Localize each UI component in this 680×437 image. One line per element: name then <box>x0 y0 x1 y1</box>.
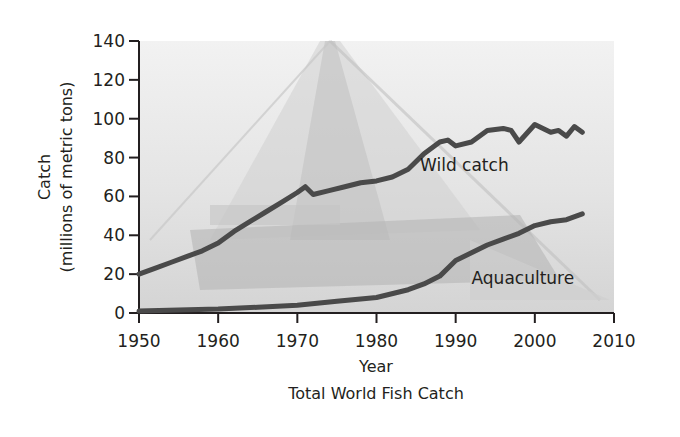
y-axis-subtitle: (millions of metric tons) <box>57 82 76 273</box>
y-tick-label: 120 <box>93 70 125 90</box>
x-tick-label: 1960 <box>197 331 240 351</box>
x-tick-label: 2000 <box>513 331 556 351</box>
x-tick-label: 1990 <box>434 331 477 351</box>
fish-catch-chart: 020406080100120140 195019601970198019902… <box>0 0 680 437</box>
y-tick-label: 100 <box>93 109 125 129</box>
y-tick-label: 20 <box>103 264 125 284</box>
y-tick-label: 0 <box>114 303 125 323</box>
wild-catch-label: Wild catch <box>420 155 509 175</box>
y-axis-title: Catch <box>35 154 54 200</box>
chart-title: Total World Fish Catch <box>287 384 464 403</box>
y-tick-label: 80 <box>103 148 125 168</box>
x-tick-label: 1980 <box>355 331 398 351</box>
x-tick-label: 1970 <box>276 331 319 351</box>
y-tick-label: 40 <box>103 225 125 245</box>
x-axis-title: Year <box>358 357 393 376</box>
aquaculture-label: Aquaculture <box>472 268 575 288</box>
x-tick-label: 2010 <box>592 331 635 351</box>
x-tick-label: 1950 <box>117 331 160 351</box>
y-tick-label: 60 <box>103 186 125 206</box>
y-tick-label: 140 <box>93 31 125 51</box>
y-axis: 020406080100120140 <box>93 31 139 323</box>
x-axis: 1950196019701980199020002010 <box>117 313 635 351</box>
